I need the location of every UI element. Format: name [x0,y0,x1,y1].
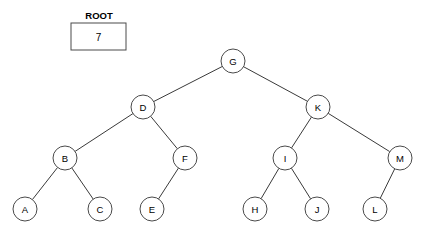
node-label-e: E [149,204,155,215]
node-label-b: B [62,153,68,164]
tree-edge-f-e [159,168,179,199]
tree-edge-b-c [72,168,93,199]
tree-edge-g-k [244,67,308,102]
node-label-c: C [97,204,104,215]
node-layer: GDKBFIMACEHJL [13,49,412,221]
tree-edge-g-d [154,66,223,101]
tree-node-k[interactable]: K [306,95,330,119]
tree-node-i[interactable]: I [273,146,297,170]
tree-node-e[interactable]: E [140,197,164,221]
tree-diagram-canvas: GDKBFIMACEHJL ROOT 7 [0,0,423,237]
node-label-g: G [229,56,236,67]
root-pointer-box: ROOT 7 [71,10,126,51]
node-label-d: D [140,102,147,113]
tree-edge-i-j [291,168,310,199]
tree-edge-b-a [32,167,57,199]
tree-edge-m-l [380,169,394,198]
tree-node-d[interactable]: D [131,95,155,119]
tree-node-b[interactable]: B [53,146,77,170]
node-label-f: F [182,153,188,164]
node-label-h: H [252,204,259,215]
tree-node-c[interactable]: C [88,197,112,221]
tree-node-m[interactable]: M [388,146,412,170]
node-label-l: L [372,204,377,215]
node-label-k: K [315,102,322,113]
node-label-m: M [396,153,404,164]
tree-node-j[interactable]: J [305,197,329,221]
tree-node-g[interactable]: G [221,49,245,73]
tree-node-l[interactable]: L [363,197,387,221]
node-label-i: I [284,153,287,164]
tree-edge-d-f [151,116,178,148]
tree-node-a[interactable]: A [13,197,37,221]
edge-layer [32,66,394,199]
tree-edge-k-i [292,117,312,148]
tree-node-f[interactable]: F [173,146,197,170]
node-label-j: J [315,204,320,215]
tree-node-h[interactable]: H [243,197,267,221]
tree-edge-d-b [75,114,133,152]
root-caption-label: ROOT [85,10,113,21]
root-pointer-value: 7 [96,32,102,43]
binary-tree-svg: GDKBFIMACEHJL ROOT 7 [0,0,423,237]
tree-edge-k-m [328,113,390,151]
tree-edge-i-h [261,168,279,198]
node-label-a: A [22,204,29,215]
